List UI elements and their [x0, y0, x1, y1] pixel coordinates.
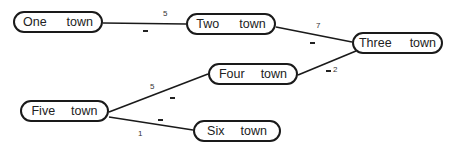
node-label-word1: Two [196, 17, 219, 31]
node-label-word1: Three [359, 36, 392, 50]
edge-weight-five-six: 1 [138, 130, 142, 138]
node-label-word2: town [71, 104, 97, 118]
node-label-word1: Six [207, 124, 224, 138]
node-label-word2: town [239, 17, 265, 31]
node-label-word1: Five [31, 104, 55, 118]
node-two-town: Twotown [186, 13, 276, 35]
edge-line [276, 27, 352, 42]
edge-dash-mark [143, 30, 148, 32]
edge-dash-mark [158, 119, 163, 121]
edge-line [109, 74, 208, 112]
edge-dash-mark [310, 42, 315, 44]
edge-dash-mark [326, 70, 331, 72]
edge-weight-five-four: 5 [150, 83, 154, 91]
edge-line [109, 117, 193, 130]
node-four-town: Fourtown [208, 63, 298, 85]
node-label-word2: town [261, 67, 287, 81]
node-six-town: Sixtown [193, 120, 281, 142]
node-label-word2: town [67, 15, 93, 29]
edge-weight-two-three: 7 [316, 22, 320, 30]
edge-weight-one-two: 5 [163, 10, 167, 18]
node-label-word2: town [240, 124, 266, 138]
node-label-word1: One [23, 15, 47, 29]
edge-line [103, 23, 186, 24]
node-three-town: Threetown [352, 32, 443, 54]
edge-weight-four-three: 2 [333, 66, 337, 74]
node-label-word2: town [410, 36, 436, 50]
node-five-town: Fivetown [20, 100, 109, 122]
node-one-town: Onetown [13, 11, 103, 33]
node-label-word1: Four [219, 67, 245, 81]
edge-dash-mark [170, 97, 175, 99]
